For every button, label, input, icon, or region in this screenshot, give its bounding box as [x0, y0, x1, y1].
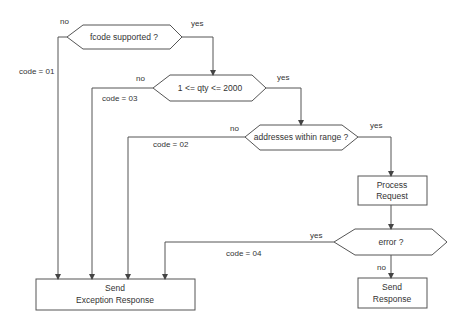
- edge-error-yes: [165, 242, 334, 279]
- label-fcode-no: no: [60, 17, 69, 26]
- decision-addresses-label: addresses within range ?: [254, 132, 349, 142]
- process-request-line1: Process: [377, 180, 408, 190]
- send-exception-response-box: Send Exception Response: [36, 279, 195, 310]
- edge-addr-yes: [358, 137, 391, 176]
- decision-error-label: error ?: [378, 237, 403, 247]
- edge-fcode-no: [58, 37, 67, 279]
- send-exception-line2: Exception Response: [76, 295, 154, 305]
- label-error-yes: yes: [310, 231, 322, 240]
- label-fcode-yes: yes: [191, 19, 203, 28]
- decision-qty-label: 1 <= qty <= 2000: [178, 83, 243, 93]
- decision-error: error ?: [334, 229, 447, 255]
- process-request-box: Process Request: [358, 176, 427, 205]
- label-qty-no: no: [136, 74, 145, 83]
- label-error-no: no: [377, 263, 386, 272]
- label-addr-no: no: [230, 124, 239, 133]
- label-code-04: code = 04: [226, 249, 262, 258]
- decision-fcode-supported: fcode supported ?: [67, 25, 182, 49]
- label-code-03: code = 03: [102, 94, 138, 103]
- label-code-01: code = 01: [19, 67, 55, 76]
- edge-qty-yes: [266, 88, 301, 125]
- send-response-box: Send Response: [358, 278, 427, 308]
- send-exception-line1: Send: [105, 283, 125, 293]
- send-response-line1: Send: [382, 282, 402, 292]
- decision-addresses-range: addresses within range ?: [245, 125, 358, 150]
- label-addr-yes: yes: [370, 121, 382, 130]
- send-response-line2: Response: [373, 294, 412, 304]
- flowchart: fcode supported ? 1 <= qty <= 2000 addre…: [0, 0, 469, 327]
- label-code-02: code = 02: [153, 140, 189, 149]
- process-request-line2: Request: [376, 191, 408, 201]
- decision-fcode-label: fcode supported ?: [90, 32, 158, 42]
- label-qty-yes: yes: [277, 73, 289, 82]
- edge-fcode-yes: [182, 37, 213, 75]
- edge-qty-no: [92, 88, 153, 279]
- decision-qty-range: 1 <= qty <= 2000: [153, 75, 266, 101]
